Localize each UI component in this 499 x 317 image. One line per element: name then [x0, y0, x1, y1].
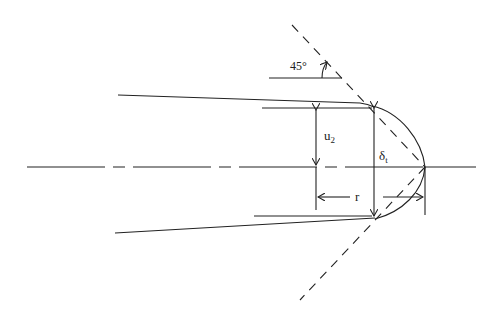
u2-label: u2 — [324, 128, 335, 145]
upper-45-dashed-line — [292, 25, 425, 167]
upper-profile-line — [118, 95, 374, 107]
lower-45-dashed-line — [300, 167, 425, 300]
angle-label: 45° — [290, 59, 307, 73]
delta-label: δt — [379, 148, 388, 165]
diagram-canvas: 45° u2 δt r — [0, 0, 499, 317]
r-label: r — [355, 189, 360, 204]
lower-profile-line — [115, 218, 375, 233]
angle-arc-arrow — [322, 62, 327, 78]
